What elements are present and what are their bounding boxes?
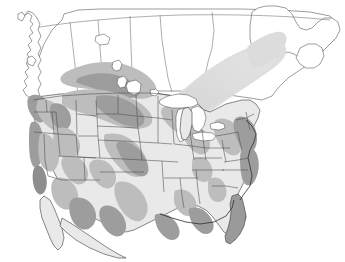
newfoundland-outline — [296, 44, 324, 68]
distribution-map-figure: North America Distribution Map United St… — [0, 0, 345, 262]
map-canvas: North America Distribution Map — [0, 0, 345, 262]
